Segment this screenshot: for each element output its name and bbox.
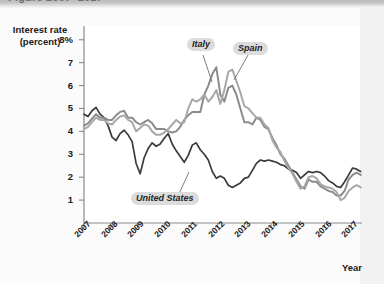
x-axis-title: Year: [342, 262, 362, 273]
y-tick-label: 5: [47, 102, 73, 113]
series-label-italy: Italy: [187, 38, 215, 51]
y-tick-label: 2: [47, 171, 73, 182]
data-series-group: [84, 67, 361, 200]
leader-lines-group: [178, 55, 248, 196]
y-tick-label: 1: [47, 194, 73, 205]
italy-leader-line: [203, 55, 212, 82]
y-tick-label: 8%: [47, 34, 73, 45]
spain-leader-line: [234, 55, 248, 80]
axes-group: [84, 26, 362, 223]
y-tick-marks: [79, 40, 84, 200]
series-label-united-states: United States: [131, 192, 199, 205]
series-line-spain: [84, 70, 361, 201]
y-tick-label: 4: [47, 125, 73, 136]
y-tick-label: 7: [47, 57, 73, 68]
series-label-spain: Spain: [233, 42, 268, 55]
y-tick-label: 3: [47, 148, 73, 159]
series-line-united-states: [84, 107, 361, 187]
y-tick-label: 6: [47, 80, 73, 91]
figure-container: Figure 2007–2017 Interest rate (percent)…: [0, 0, 384, 284]
